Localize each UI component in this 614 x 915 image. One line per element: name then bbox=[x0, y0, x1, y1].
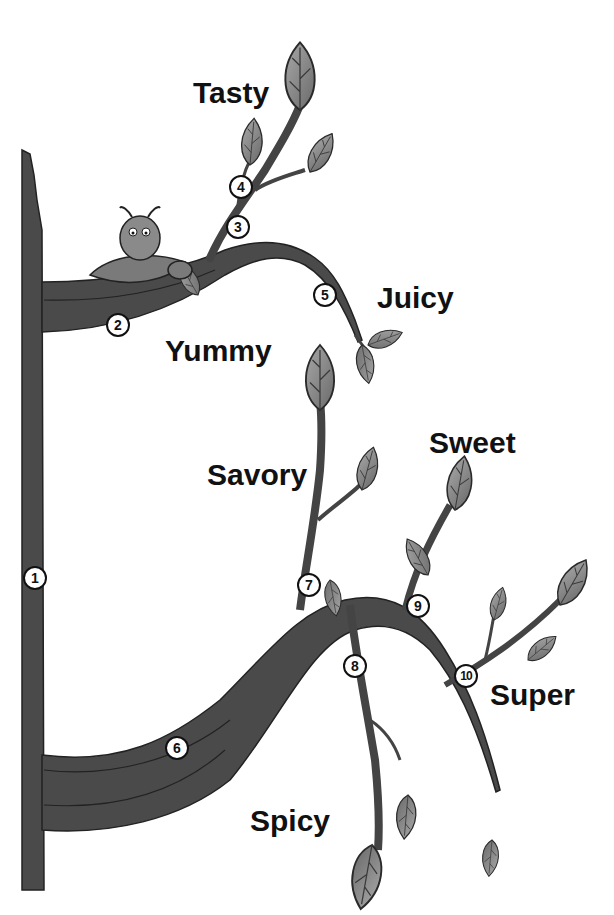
vine-diagram bbox=[0, 0, 614, 915]
node-9: 9 bbox=[406, 594, 430, 618]
label-sweet: Sweet bbox=[429, 428, 516, 458]
label-spicy: Spicy bbox=[250, 806, 330, 836]
node-1: 1 bbox=[23, 566, 47, 590]
node-7: 7 bbox=[297, 573, 321, 597]
label-yummy: Yummy bbox=[165, 336, 272, 366]
label-tasty: Tasty bbox=[193, 78, 269, 108]
node-4: 4 bbox=[229, 175, 253, 199]
node-8: 8 bbox=[343, 654, 367, 678]
node-6: 6 bbox=[165, 736, 189, 760]
node-2: 2 bbox=[106, 313, 130, 337]
node-10: 10 bbox=[454, 664, 478, 688]
label-super: Super bbox=[490, 680, 575, 710]
trunk bbox=[22, 150, 44, 890]
label-juicy: Juicy bbox=[377, 283, 454, 313]
caterpillar-icon bbox=[90, 207, 192, 282]
node-3: 3 bbox=[226, 215, 250, 239]
node-5: 5 bbox=[313, 283, 337, 307]
label-savory: Savory bbox=[207, 460, 307, 490]
